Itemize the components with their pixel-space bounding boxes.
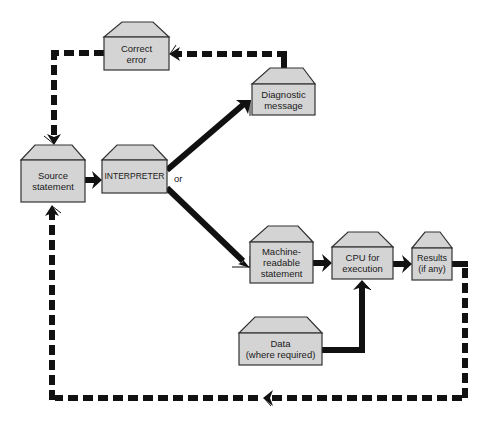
label-interpreter: INTERPRETER: [102, 160, 167, 193]
label-diagnostic-message: Diagnostic message: [252, 84, 315, 115]
label-cpu: CPU for execution: [332, 247, 393, 279]
branch-or-label: or: [174, 173, 182, 184]
edge-cpu-to-results: [393, 255, 412, 273]
edge-correct-error-to-source: [44, 50, 104, 145]
edge-diagnostic-to-correct-error: [169, 45, 287, 68]
edge-data-to-cpu: [322, 280, 371, 353]
label-results: Results (if any): [412, 248, 452, 280]
label-machine-readable: Machine- readable statement: [250, 242, 313, 283]
label-data: Data (where required): [239, 333, 322, 365]
edge-results-to-source: [45, 205, 468, 406]
edge-interpreter-to-machine-readable: [167, 188, 250, 268]
edge-machine-readable-to-cpu: [313, 254, 332, 272]
edge-source-to-interpreter: [85, 171, 102, 189]
edge-interpreter-to-diagnostic: [167, 100, 251, 170]
interpreter-flowchart: .box{fill:#d4d4d4;stroke:#333;stroke-wid…: [0, 0, 490, 426]
label-source-statement: Source statement: [21, 160, 85, 202]
label-correct-error: Correct error: [104, 37, 169, 70]
